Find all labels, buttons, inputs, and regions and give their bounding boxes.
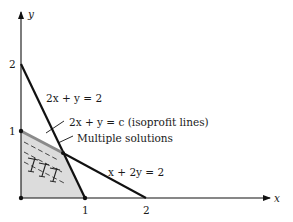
constraint-label-x-plus-2y: x + 2y = 2 [108, 166, 164, 178]
constraint-label-2x-plus-y: 2x + y = 2 [46, 92, 102, 104]
isoprofit-label: 2x + y = c (isoprofit lines) [69, 116, 209, 128]
x-tick-2: 2 [143, 204, 150, 216]
y-tick-1: 1 [9, 125, 16, 137]
x-axis-label: x [274, 192, 280, 204]
multiple-solutions-label: Multiple solutions [77, 132, 173, 144]
lp-graph: y x 2 1 1 2 2x + y = 2 2x + y = c (isopr… [0, 0, 293, 222]
multiple-solutions-leader [58, 136, 73, 143]
feasible-region [21, 131, 85, 198]
y-tick-2: 2 [9, 58, 16, 70]
x-tick-1: 1 [82, 204, 89, 216]
y-axis-label: y [27, 8, 35, 20]
